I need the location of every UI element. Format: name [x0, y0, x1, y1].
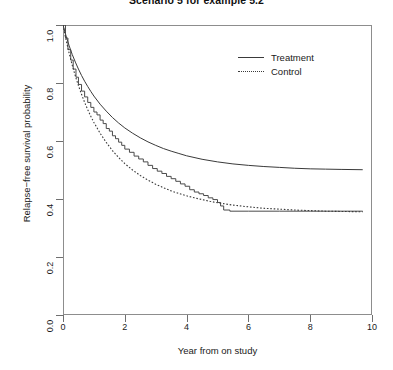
x-axis-label: Year from on study	[63, 345, 372, 356]
x-tick-label: 8	[298, 322, 322, 332]
y-tick-label: 1.0	[45, 23, 55, 49]
legend-item-treatment: Treatment	[238, 50, 314, 64]
y-tick-mark	[56, 257, 63, 258]
chart-title: Scenario 5 for example 5.2	[0, 0, 393, 6]
series-line-treatment	[63, 25, 363, 170]
y-tick-mark	[56, 141, 63, 142]
y-tick-mark	[56, 83, 63, 84]
y-tick-mark	[56, 315, 63, 316]
series-line-control-empirical	[63, 25, 363, 211]
y-tick-label: 0.2	[45, 255, 55, 281]
legend-item-control: Control	[238, 64, 314, 78]
y-tick-label: 0.4	[45, 197, 55, 223]
y-tick-mark	[56, 199, 63, 200]
chart-root: Scenario 5 for example 5.2 0.00.20.40.60…	[0, 0, 393, 370]
x-tick-mark	[63, 315, 64, 322]
legend-label-treatment: Treatment	[271, 52, 314, 63]
x-tick-mark	[372, 315, 373, 322]
chart-legend: Treatment Control	[238, 50, 314, 78]
y-tick-mark	[56, 25, 63, 26]
y-tick-label: 0.6	[45, 139, 55, 165]
x-tick-mark	[125, 315, 126, 322]
y-tick-label: 0.8	[45, 81, 55, 107]
y-axis-label: Relapse−free survival probability	[21, 54, 32, 254]
series-line-control	[63, 25, 363, 212]
legend-swatch-solid-icon	[238, 52, 264, 62]
x-tick-label: 2	[113, 322, 137, 332]
x-tick-mark	[310, 315, 311, 322]
x-tick-label: 10	[360, 322, 384, 332]
legend-swatch-dotted-icon	[238, 66, 264, 76]
x-tick-mark	[248, 315, 249, 322]
x-tick-label: 6	[236, 322, 260, 332]
x-tick-label: 0	[51, 322, 75, 332]
plot-area	[63, 25, 372, 315]
x-tick-label: 4	[175, 322, 199, 332]
legend-label-control: Control	[271, 66, 302, 77]
x-tick-mark	[187, 315, 188, 322]
